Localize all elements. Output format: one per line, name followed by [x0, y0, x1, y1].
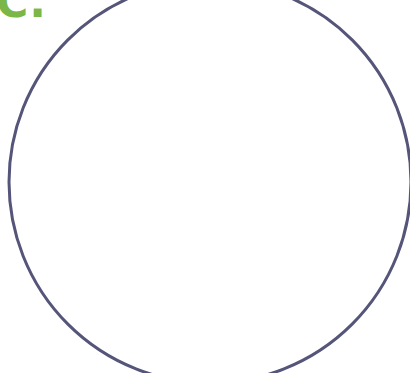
circle-shape	[0, 0, 410, 373]
panel-label: C.	[0, 0, 47, 24]
